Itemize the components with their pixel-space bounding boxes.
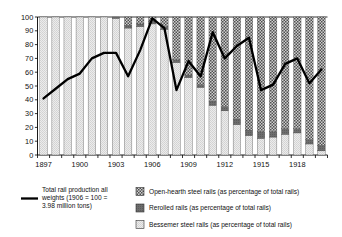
bar-segment <box>294 133 301 155</box>
y-tick-label: 20 <box>25 123 33 132</box>
bar-segment <box>245 136 252 155</box>
legend-line-label: weights (1906 = 100 = <box>41 194 107 202</box>
bar-stack <box>64 17 71 155</box>
chart-canvas: 0102030405060708090100 18971900190319061… <box>0 0 342 237</box>
bar-segment <box>281 134 288 155</box>
bar-stack <box>221 17 228 155</box>
bar-segment <box>318 17 325 145</box>
legend-item-label: Open-hearth steel rails (as percentage o… <box>149 188 299 196</box>
bar-segment <box>124 28 131 155</box>
bar-segment <box>233 125 240 155</box>
bar-stack <box>124 17 131 155</box>
bar-segment <box>209 101 216 105</box>
bar-segment <box>40 17 47 155</box>
bar-segment <box>221 107 228 111</box>
bar-segment <box>185 75 192 78</box>
y-tick-label: 10 <box>25 137 33 146</box>
bar-segment <box>269 17 276 132</box>
bar-stack <box>100 17 107 155</box>
bar-stack <box>136 17 143 155</box>
bar-segment <box>245 17 252 130</box>
bar-segment <box>233 17 240 119</box>
bar-stack <box>76 17 83 155</box>
bar-segment <box>136 24 143 27</box>
bar-stack <box>294 17 301 155</box>
bar-segment <box>318 145 325 151</box>
bar-segment <box>269 137 276 155</box>
bar-segment <box>281 129 288 135</box>
bar-segment <box>173 17 180 60</box>
bar-segment <box>221 111 228 155</box>
bar-segment <box>257 138 264 155</box>
y-tick-label: 0 <box>29 151 33 160</box>
bar-segment <box>100 17 107 155</box>
bar-segment <box>257 132 264 139</box>
y-tick-label: 90 <box>25 26 33 35</box>
legend-line-label: 3.98 million tons) <box>42 202 92 210</box>
legend-light-stipple-swatch <box>136 221 144 229</box>
bar-segment <box>306 140 313 144</box>
x-tick-label: 1912 <box>217 160 233 169</box>
legend-dark-solid-swatch <box>136 204 144 212</box>
y-tick-label: 40 <box>25 95 33 104</box>
bar-stack <box>185 17 192 155</box>
bar-segment <box>149 24 156 155</box>
bar-segment <box>245 130 252 136</box>
y-tick-label: 70 <box>25 54 33 63</box>
bar-segment <box>269 132 276 138</box>
bar-segment <box>209 105 216 155</box>
bar-stack <box>281 17 288 155</box>
bar-stack <box>306 17 313 155</box>
bar-segment <box>88 17 95 155</box>
bar-segment <box>281 17 288 129</box>
bar-segment <box>112 17 119 18</box>
y-tick-label: 50 <box>25 82 33 91</box>
bar-segment <box>294 17 301 129</box>
bar-segment <box>221 17 228 107</box>
y-tick-label: 80 <box>25 40 33 49</box>
bar-segment <box>161 29 168 155</box>
legend-line-label: Total rail production all <box>42 186 108 194</box>
legend-checker-swatch <box>136 188 144 196</box>
bar-stack <box>40 17 47 155</box>
bar-stack <box>112 17 119 155</box>
x-tick-label: 1906 <box>144 160 160 169</box>
bar-segment <box>136 17 143 24</box>
bar-segment <box>76 17 83 155</box>
bar-segment <box>294 129 301 133</box>
bar-segment <box>173 60 180 63</box>
bar-segment <box>318 151 325 155</box>
bar-segment <box>112 18 119 155</box>
y-tick-label: 100 <box>21 13 33 22</box>
x-tick-label: 1915 <box>253 160 269 169</box>
x-tick-label: 1900 <box>72 160 88 169</box>
bar-segment <box>197 85 204 88</box>
x-tick-label: 1903 <box>108 160 124 169</box>
legend-item-label: Bessemer steel rails (as percentage of t… <box>149 221 292 229</box>
bar-segment <box>197 87 204 155</box>
bar-segment <box>124 25 131 28</box>
x-tick-label: 1897 <box>35 160 51 169</box>
bar-segment <box>185 78 192 155</box>
y-tick-label: 60 <box>25 68 33 77</box>
x-tick-label: 1918 <box>289 160 305 169</box>
bar-segment <box>306 144 313 155</box>
bar-stack <box>233 17 240 155</box>
bar-stack <box>149 17 156 155</box>
bar-stack <box>318 17 325 155</box>
legend-item-label: Rerolled rails (as percentage of total r… <box>149 204 271 212</box>
bar-stack <box>197 17 204 155</box>
bar-stack <box>88 17 95 155</box>
bar-segment <box>209 17 216 101</box>
x-tick-label: 1909 <box>180 160 196 169</box>
bar-segment <box>64 17 71 155</box>
bar-segment <box>124 17 131 25</box>
bar-segment <box>233 119 240 125</box>
rail-production-chart: 0102030405060708090100 18971900190319061… <box>0 0 342 237</box>
y-tick-label: 30 <box>25 109 33 118</box>
